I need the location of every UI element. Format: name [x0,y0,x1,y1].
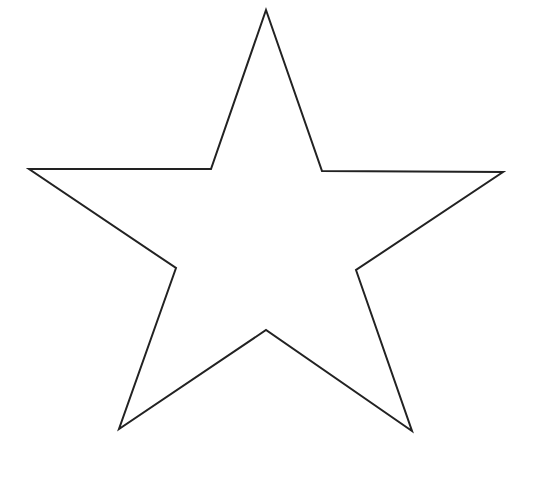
star-shape [29,10,503,431]
star-figure [0,0,536,483]
drawing-canvas [0,0,536,483]
